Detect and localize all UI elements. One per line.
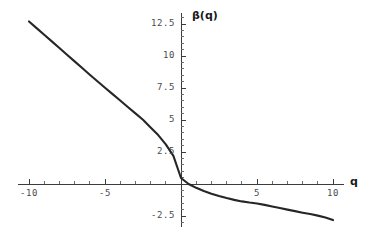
- y-tick-label: 5: [169, 115, 175, 124]
- y-tick-label: 2.5: [157, 147, 175, 156]
- y-tick-label: -2.5: [151, 211, 175, 220]
- x-tick-label: 5: [254, 189, 260, 198]
- x-axis-label: q: [350, 176, 358, 187]
- y-tick-label: 10: [163, 51, 175, 60]
- y-tick-label: 12.5: [151, 19, 175, 28]
- y-axis-label: β(q): [192, 10, 218, 21]
- x-tick-label: -5: [99, 189, 111, 198]
- x-tick-label: -10: [20, 189, 38, 198]
- chart-figure: -10-551012.5107.552.5-2.5 β(q) q: [0, 0, 377, 243]
- plot-canvas: [0, 0, 377, 243]
- y-tick-label: 7.5: [157, 83, 175, 92]
- x-tick-label: 10: [327, 189, 339, 198]
